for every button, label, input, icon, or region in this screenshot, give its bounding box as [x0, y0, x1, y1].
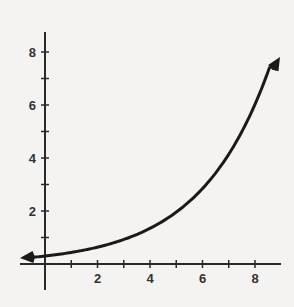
- x-tick-label: 4: [146, 271, 154, 286]
- y-tick-label: 6: [29, 98, 36, 113]
- y-tick-label: 8: [29, 45, 36, 60]
- x-tick-label: 8: [251, 271, 258, 286]
- curve: [20, 57, 280, 263]
- exponential-curve-line: [29, 68, 269, 258]
- y-tick-label: 4: [29, 151, 37, 166]
- exponential-chart: 2468 2468: [0, 0, 294, 307]
- x-tick-label: 6: [199, 271, 206, 286]
- arrowhead-start-icon: [20, 251, 35, 263]
- axes: 2468 2468: [20, 32, 281, 290]
- y-tick-label: 2: [29, 204, 36, 219]
- x-tick-label: 2: [94, 271, 101, 286]
